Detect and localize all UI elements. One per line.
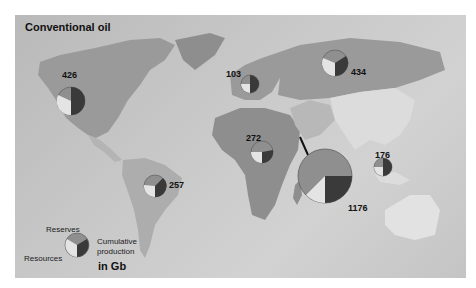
land-central-america xyxy=(88,135,122,162)
map-frame xyxy=(15,15,466,278)
pie-middle-east[interactable] xyxy=(298,149,352,203)
pie-africa[interactable] xyxy=(251,141,273,163)
land-australia xyxy=(385,195,440,240)
legend-resources-label: Resources xyxy=(24,254,62,263)
pie-north-america[interactable] xyxy=(57,87,85,115)
world-map xyxy=(15,15,466,278)
land-asia xyxy=(330,88,415,150)
land-north-america xyxy=(38,38,175,138)
pie-latin-america[interactable] xyxy=(144,175,167,197)
land-greenland xyxy=(175,33,225,70)
value-middle-east: 1176 xyxy=(348,203,368,213)
arrow-pointer xyxy=(300,137,308,155)
pie-fsu[interactable] xyxy=(322,50,348,76)
value-latin-america: 257 xyxy=(169,180,184,190)
land-africa xyxy=(212,108,300,220)
legend-cumulative-label-2: production xyxy=(97,247,134,256)
value-africa: 272 xyxy=(246,133,261,143)
value-north-america: 426 xyxy=(62,70,77,80)
value-asia-pacific: 176 xyxy=(375,150,390,160)
pie-europe[interactable] xyxy=(241,75,259,93)
legend-pie xyxy=(65,233,89,257)
pie-asia-pacific[interactable] xyxy=(374,158,392,176)
value-europe: 103 xyxy=(226,69,241,79)
map-title: Conventional oil xyxy=(25,21,111,33)
value-fsu: 434 xyxy=(351,67,366,77)
legend-cumulative-label-1: Cumulative xyxy=(97,237,137,246)
legend-reserves-label: Reserves xyxy=(46,225,80,234)
legend-unit: in Gb xyxy=(98,260,126,272)
